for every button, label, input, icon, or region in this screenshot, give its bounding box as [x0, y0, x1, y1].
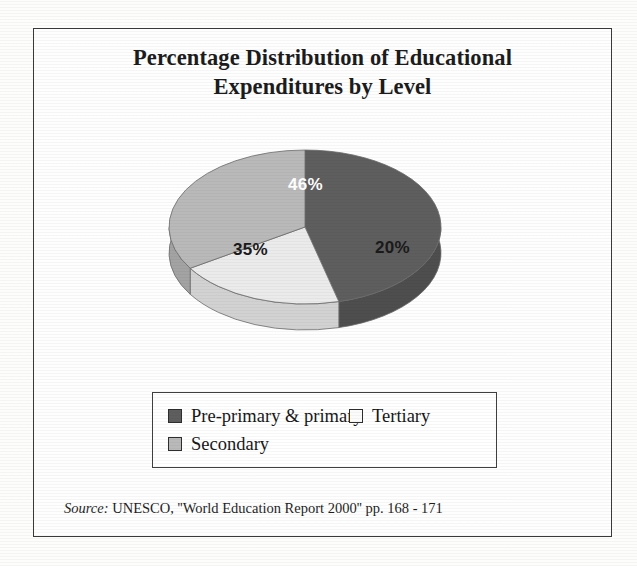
- chart-title-line-2: Expenditures by Level: [33, 72, 612, 101]
- legend-label-pre-primary-primary: Pre-primary & primary: [191, 406, 363, 426]
- legend-swatch-tertiary: [349, 409, 363, 423]
- source-label: Source:: [64, 500, 109, 516]
- legend-swatch-pre-primary-primary: [168, 409, 182, 423]
- legend-item-secondary: Secondary: [168, 434, 269, 454]
- pie-slice-label-tertiary: 20%: [375, 238, 410, 258]
- source-note: Source: UNESCO, ''World Education Report…: [64, 500, 443, 517]
- pie-top-faces: [169, 150, 441, 304]
- legend-item-pre-primary-primary: Pre-primary & primary: [168, 406, 363, 426]
- pie-slice-label-secondary: 35%: [233, 240, 268, 260]
- chart-legend: Pre-primary & primary Tertiary Secondary: [152, 392, 497, 468]
- legend-label-tertiary: Tertiary: [372, 406, 430, 426]
- source-text: UNESCO, ''World Education Report 2000'' …: [112, 500, 443, 516]
- pie-chart: 46% 20% 35%: [160, 138, 480, 343]
- legend-swatch-secondary: [168, 437, 182, 451]
- legend-item-tertiary: Tertiary: [349, 406, 430, 426]
- chart-title: Percentage Distribution of Educational E…: [33, 43, 612, 101]
- chart-title-line-1: Percentage Distribution of Educational: [133, 45, 512, 70]
- pie-slice-label-pre-primary-primary: 46%: [288, 175, 323, 195]
- pie-chart-svg: [160, 138, 480, 343]
- scanned-page: Percentage Distribution of Educational E…: [0, 0, 637, 566]
- legend-label-secondary: Secondary: [191, 434, 269, 454]
